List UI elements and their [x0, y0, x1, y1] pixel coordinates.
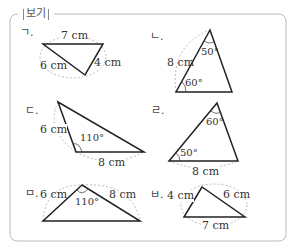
angle-label: 110°: [75, 196, 99, 208]
marker-bieup: ㅂ.: [150, 189, 164, 201]
side-label: 8 cm: [192, 166, 219, 178]
side-label: 8 cm: [167, 57, 194, 69]
marker-nieun: ㄴ.: [150, 31, 164, 43]
angle-label: 50°: [180, 147, 198, 159]
side-label: 4 cm: [167, 190, 194, 202]
angle-label: 50°: [201, 46, 219, 58]
bogi-title: 보기: [18, 7, 54, 21]
side-label: 7 cm: [202, 220, 229, 232]
angle-label: 60°: [185, 77, 203, 89]
bogi-title-text: 보기: [26, 7, 46, 20]
angle-label: 110°: [80, 132, 104, 144]
marker-rieul: ㄹ.: [151, 105, 165, 117]
marker-mieum: ㅁ.: [25, 188, 39, 200]
marker-digeut: ㄷ.: [25, 105, 39, 117]
side-label: 6 cm: [40, 60, 67, 72]
side-label: 7 cm: [61, 30, 88, 42]
side-label: 8 cm: [98, 157, 125, 169]
angle-label: 60°: [206, 116, 224, 128]
side-label: 6 cm: [40, 124, 67, 136]
marker-giyeok: ㄱ.: [20, 27, 34, 39]
side-label: 4 cm: [94, 57, 121, 69]
side-label: 6 cm: [40, 189, 67, 201]
side-label: 8 cm: [109, 189, 136, 201]
side-label: 6 cm: [223, 189, 250, 201]
